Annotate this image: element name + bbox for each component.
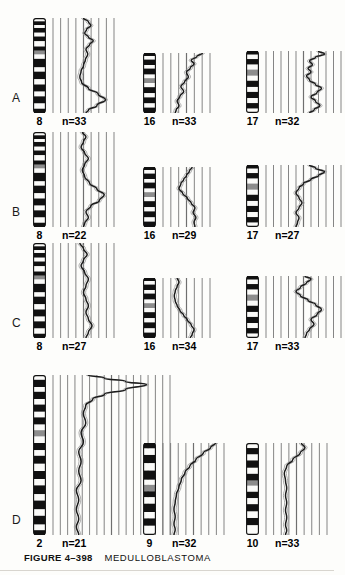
ideogram-chr17 (246, 276, 259, 338)
panel-letter-b: B (12, 205, 20, 219)
figure-caption: FIGURE 4–398 MEDULLOBLASTOMA (24, 552, 211, 563)
panel-letter-d: D (12, 513, 21, 527)
ideogram-chr2 (33, 375, 46, 535)
chromosome-number-label: 8 (33, 229, 46, 241)
chromosome-number-label: 8 (33, 115, 46, 127)
panel-letter-a: A (12, 91, 20, 105)
ideogram-chr8 (33, 132, 46, 227)
figure-number: FIGURE 4–398 (24, 552, 93, 563)
sample-count-label: n=22 (62, 229, 86, 241)
cgh-profile-chr17 (262, 51, 345, 113)
chromosome-number-label: 17 (246, 340, 259, 352)
sample-count-label: n=33 (62, 115, 86, 127)
cgh-profile-chr9 (159, 443, 228, 535)
chromosome-number-label: 10 (246, 537, 259, 549)
sample-count-label: n=29 (172, 229, 196, 241)
sample-count-label: n=33 (275, 537, 299, 549)
chromosome-number-label: 16 (143, 115, 156, 127)
sample-count-label: n=32 (172, 537, 196, 549)
ideogram-chr8 (33, 18, 46, 113)
cgh-profile-chr17 (262, 276, 345, 338)
cgh-profile-chr8 (49, 243, 118, 338)
sample-count-label: n=27 (62, 340, 86, 352)
ideogram-chr17 (246, 165, 259, 227)
panel-letter-c: C (12, 316, 21, 330)
cgh-profile-chr10 (262, 443, 331, 535)
cgh-profile-chr17 (262, 165, 345, 227)
chromosome-number-label: 17 (246, 115, 259, 127)
cgh-profile-chr8 (49, 132, 118, 227)
cgh-profile-chr16 (159, 278, 214, 338)
footer-rule (0, 570, 334, 571)
sample-count-label: n=21 (62, 537, 86, 549)
cgh-profile-chr16 (159, 53, 214, 113)
cgh-profile-chr16 (159, 167, 214, 227)
sample-count-label: n=33 (275, 340, 299, 352)
ideogram-chr16 (143, 167, 156, 227)
ideogram-chr8 (33, 243, 46, 338)
chromosome-number-label: 8 (33, 340, 46, 352)
chromosome-number-label: 16 (143, 229, 156, 241)
figure-title: MEDULLOBLASTOMA (104, 552, 211, 563)
ideogram-chr16 (143, 53, 156, 113)
ideogram-chr9 (143, 443, 156, 535)
sample-count-label: n=27 (275, 229, 299, 241)
chromosome-number-label: 16 (143, 340, 156, 352)
sample-count-label: n=32 (275, 115, 299, 127)
ideogram-chr17 (246, 51, 259, 113)
cgh-profile-chr8 (49, 18, 118, 113)
chromosome-number-label: 17 (246, 229, 259, 241)
sample-count-label: n=33 (172, 115, 196, 127)
ideogram-chr10 (246, 443, 259, 535)
ideogram-chr16 (143, 278, 156, 338)
chromosome-number-label: 9 (143, 537, 156, 549)
chromosome-number-label: 2 (33, 537, 46, 549)
sample-count-label: n=34 (172, 340, 196, 352)
